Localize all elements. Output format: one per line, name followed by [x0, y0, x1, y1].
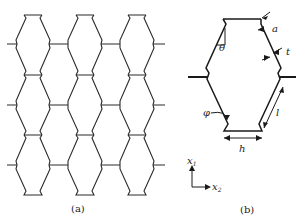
theta-label: θ	[219, 42, 225, 53]
a-label: a	[272, 23, 278, 34]
l-label: l	[276, 107, 279, 118]
figure-canvas: (a) θ a t φ l h x1 x2	[0, 0, 299, 222]
t-label: t	[286, 46, 291, 57]
panel-b-caption: (b)	[240, 204, 254, 215]
h-label: h	[239, 143, 245, 154]
panel-b-annotations	[192, 12, 283, 187]
panel-a-caption: (a)	[71, 203, 85, 214]
panel-a-lattice	[7, 15, 165, 195]
phi-label: φ	[203, 107, 210, 118]
x2-axis-label: x2	[212, 181, 222, 193]
x1-axis-label: x1	[187, 155, 196, 167]
